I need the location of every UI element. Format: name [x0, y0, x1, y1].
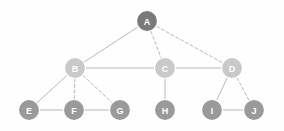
node-d[interactable]: D: [222, 58, 243, 79]
node-label-i: I: [211, 106, 214, 116]
edge-a-b: [75, 21, 147, 68]
node-label-g: G: [116, 106, 123, 116]
node-label-a: A: [144, 17, 151, 27]
node-label-c: C: [162, 64, 169, 74]
node-f[interactable]: F: [64, 100, 85, 121]
graph-diagram: ABCDEFGHIJ: [0, 0, 284, 131]
node-i[interactable]: I: [202, 100, 223, 121]
node-g[interactable]: G: [110, 100, 131, 121]
node-j[interactable]: J: [244, 100, 265, 121]
node-label-j: J: [251, 106, 256, 116]
node-h[interactable]: H: [155, 100, 176, 121]
node-label-h: H: [162, 106, 169, 116]
node-layer: ABCDEFGHIJ: [19, 11, 265, 121]
node-c[interactable]: C: [155, 58, 176, 79]
node-e[interactable]: E: [19, 100, 40, 121]
node-b[interactable]: B: [65, 58, 86, 79]
node-label-f: F: [71, 106, 77, 116]
node-label-b: B: [72, 64, 79, 74]
edge-layer: [29, 21, 254, 110]
node-label-e: E: [26, 106, 32, 116]
graph-svg: ABCDEFGHIJ: [0, 0, 284, 131]
node-label-d: D: [229, 64, 236, 74]
node-a[interactable]: A: [137, 11, 158, 32]
